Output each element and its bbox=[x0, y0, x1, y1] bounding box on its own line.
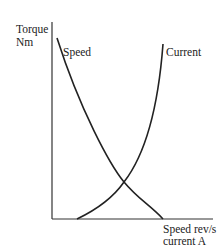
speed-curve bbox=[57, 38, 163, 219]
current-curve-label: Current bbox=[166, 46, 201, 59]
y-axis-label-torque: Torque bbox=[16, 23, 48, 36]
speed-curve-label: Speed bbox=[63, 46, 91, 59]
current-curve bbox=[77, 44, 163, 219]
x-axis-label-current: current A bbox=[163, 235, 206, 248]
chart-canvas bbox=[0, 0, 224, 248]
y-axis-label-unit: Nm bbox=[16, 36, 33, 49]
